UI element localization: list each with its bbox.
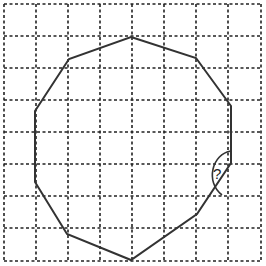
angle-question-label: ? bbox=[213, 165, 221, 182]
decagon-shape bbox=[35, 37, 231, 260]
decagon-diagram: ? bbox=[0, 0, 266, 266]
dashed-grid bbox=[4, 4, 261, 261]
